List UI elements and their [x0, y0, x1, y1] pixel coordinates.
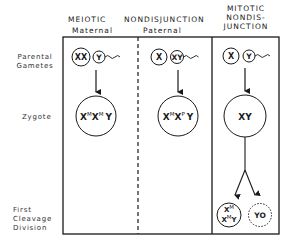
sperm-tail: [184, 56, 199, 59]
arrow-to-right-daughter: [245, 170, 255, 195]
chrom-bottom-2: Y: [231, 216, 238, 224]
egg-chromosome: X: [228, 52, 235, 61]
egg-chromosome: X: [156, 53, 163, 62]
chrom-3: Y: [186, 112, 194, 122]
chrom-3: Y: [104, 112, 112, 122]
chrom-1: X: [163, 112, 170, 122]
chrom-2: X: [174, 112, 181, 122]
zygote-karyotype: XMXPY: [163, 111, 194, 122]
chrom-1: X: [80, 112, 87, 122]
chrom-top-origin: M: [229, 204, 234, 210]
zygote-karyotype: XMXMY: [80, 111, 112, 122]
sperm-tail: [255, 55, 270, 58]
sperm-chromosomes: XY: [171, 53, 183, 62]
mitotic-panel: X Y XY XM XMY YO: [217, 48, 272, 227]
daughter-monosomic-karyotype: YO: [253, 211, 266, 220]
paternal-panel: X XY XMXPY: [151, 49, 199, 136]
zygote-karyotype: XY: [238, 112, 252, 122]
egg-chromosomes: XX: [75, 53, 88, 62]
sperm-chromosome: Y: [245, 52, 252, 61]
maternal-panel: XX Y XMXMY: [72, 48, 120, 136]
diagram-canvas: XX Y XMXMY X XY XMXPY X Y XY: [0, 0, 293, 248]
chrom-2-origin: M: [99, 111, 104, 117]
sperm-tail: [105, 56, 120, 59]
chrom-2: X: [92, 112, 99, 122]
sperm-chromosome: Y: [95, 53, 102, 62]
arrow-to-left-daughter: [235, 170, 245, 195]
